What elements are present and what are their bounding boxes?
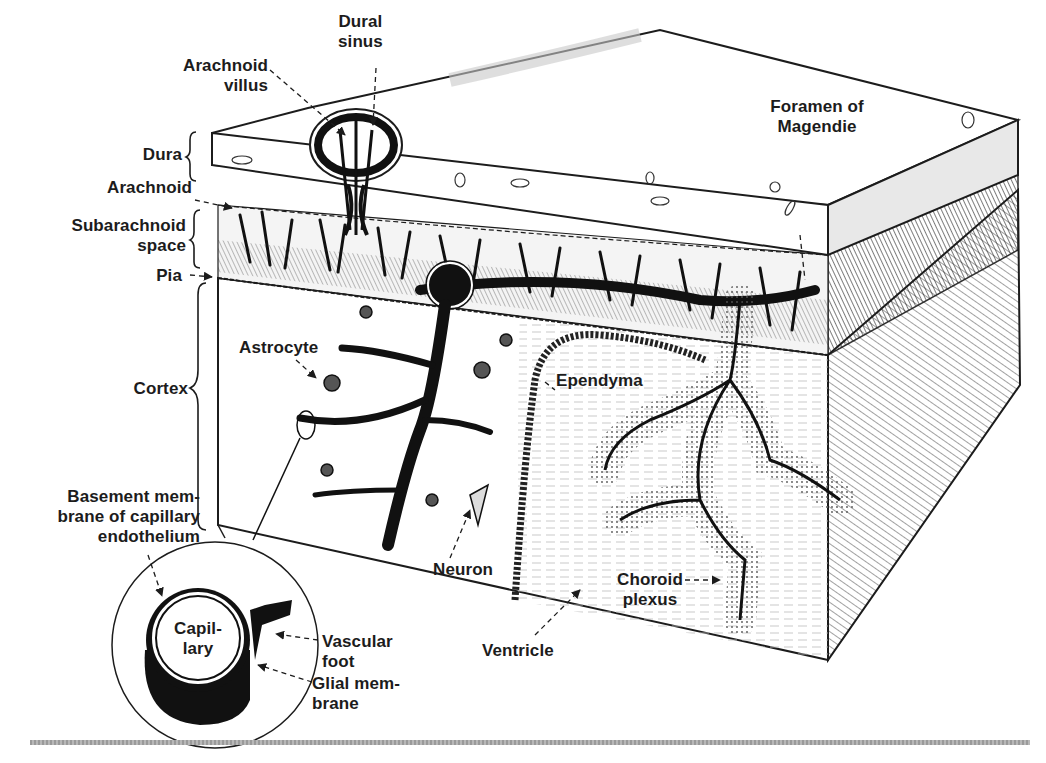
label-subarachnoid-space: Subarachnoid space xyxy=(30,216,186,256)
label-basement-membrane: Basement mem- brane of capillary endothe… xyxy=(10,487,200,547)
label-dural-sinus: Dural sinus xyxy=(338,12,383,52)
label-glial-membrane: Glial mem- brane xyxy=(312,674,400,714)
label-ventricle: Ventricle xyxy=(482,641,554,661)
label-astrocyte: Astrocyte xyxy=(239,338,318,358)
label-dura: Dura xyxy=(100,145,182,165)
label-neuron: Neuron xyxy=(433,560,493,580)
label-pia: Pia xyxy=(120,266,182,286)
label-choroid-plexus: Choroid plexus xyxy=(610,570,690,610)
label-cortex: Cortex xyxy=(100,379,188,399)
label-foramen-of-magendie: Foramen of Magendie xyxy=(755,97,879,137)
label-capillary: Capil- lary xyxy=(165,619,231,659)
label-arachnoid-villus: Arachnoid villus xyxy=(160,56,268,96)
label-arachnoid: Arachnoid xyxy=(60,178,192,198)
label-ependyma: Ependyma xyxy=(556,371,643,391)
bottom-rule xyxy=(30,740,1030,745)
label-vascular-foot: Vascular foot xyxy=(322,632,393,672)
